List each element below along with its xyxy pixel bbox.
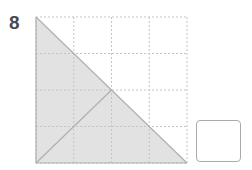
answer-box[interactable]	[196, 120, 241, 162]
